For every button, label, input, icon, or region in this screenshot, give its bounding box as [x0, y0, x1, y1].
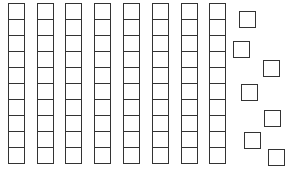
rod-cell: [37, 99, 54, 116]
rod-cell: [123, 131, 140, 148]
rod-cell: [152, 19, 169, 36]
tens-rod: [209, 3, 226, 173]
rod-cell: [94, 35, 111, 52]
rod-cell: [94, 147, 111, 164]
rod-cell: [37, 131, 54, 148]
rod-cell: [123, 35, 140, 52]
rod-cell: [65, 51, 82, 68]
rod-cell: [65, 147, 82, 164]
rod-cell: [181, 19, 198, 36]
rod-cell: [181, 35, 198, 52]
rod-cell: [65, 35, 82, 52]
tens-rod: [152, 3, 169, 173]
rod-cell: [123, 19, 140, 36]
rod-cell: [209, 51, 226, 68]
rod-cell: [123, 51, 140, 68]
tens-rod: [123, 3, 140, 173]
rod-cell: [37, 83, 54, 100]
rod-cell: [181, 147, 198, 164]
rod-cell: [152, 147, 169, 164]
rod-cell: [65, 19, 82, 36]
rod-cell: [152, 131, 169, 148]
unit-cube: [244, 132, 261, 149]
rod-cell: [65, 67, 82, 84]
rod-cell: [65, 3, 82, 20]
unit-cube: [241, 84, 258, 101]
rod-cell: [94, 51, 111, 68]
rod-cell: [37, 67, 54, 84]
tens-rod: [94, 3, 111, 173]
rod-cell: [8, 147, 25, 164]
rod-cell: [209, 131, 226, 148]
rod-cell: [123, 83, 140, 100]
rod-cell: [65, 83, 82, 100]
rod-cell: [152, 99, 169, 116]
rod-cell: [8, 19, 25, 36]
rod-cell: [209, 3, 226, 20]
tens-rod: [65, 3, 82, 173]
rod-cell: [94, 67, 111, 84]
rod-cell: [209, 35, 226, 52]
rod-cell: [94, 115, 111, 132]
rod-cell: [37, 3, 54, 20]
rod-cell: [8, 131, 25, 148]
rod-cell: [181, 115, 198, 132]
rod-cell: [123, 147, 140, 164]
rod-cell: [152, 67, 169, 84]
rod-cell: [8, 99, 25, 116]
rod-cell: [65, 115, 82, 132]
rod-cell: [209, 83, 226, 100]
tens-rod: [181, 3, 198, 173]
rod-cell: [123, 99, 140, 116]
rod-cell: [209, 115, 226, 132]
rod-cell: [8, 67, 25, 84]
rod-cell: [181, 83, 198, 100]
rod-cell: [94, 19, 111, 36]
rod-cell: [152, 3, 169, 20]
rod-cell: [152, 51, 169, 68]
rod-cell: [181, 51, 198, 68]
rod-cell: [209, 147, 226, 164]
unit-cube: [233, 41, 250, 58]
rod-cell: [94, 3, 111, 20]
rod-cell: [123, 115, 140, 132]
rod-cell: [94, 83, 111, 100]
rod-cell: [65, 131, 82, 148]
rod-cell: [37, 115, 54, 132]
rod-cell: [37, 51, 54, 68]
rod-cell: [181, 99, 198, 116]
rod-cell: [209, 19, 226, 36]
rod-cell: [8, 35, 25, 52]
rod-cell: [37, 35, 54, 52]
rod-cell: [152, 115, 169, 132]
rod-cell: [37, 19, 54, 36]
unit-cube: [268, 149, 285, 166]
rod-cell: [152, 35, 169, 52]
unit-cube: [239, 11, 256, 28]
tens-rod: [8, 3, 25, 173]
rod-cell: [123, 3, 140, 20]
rod-cell: [65, 99, 82, 116]
rod-cell: [8, 83, 25, 100]
rod-cell: [181, 131, 198, 148]
rod-cell: [181, 67, 198, 84]
tens-rod: [37, 3, 54, 173]
rod-cell: [181, 3, 198, 20]
rod-cell: [37, 147, 54, 164]
unit-cube: [263, 60, 280, 77]
rod-cell: [123, 67, 140, 84]
rod-cell: [209, 67, 226, 84]
rod-cell: [8, 51, 25, 68]
rod-cell: [152, 83, 169, 100]
rod-cell: [94, 131, 111, 148]
unit-cube: [264, 110, 281, 127]
rod-cell: [8, 3, 25, 20]
rod-cell: [8, 115, 25, 132]
rod-cell: [94, 99, 111, 116]
rod-cell: [209, 99, 226, 116]
